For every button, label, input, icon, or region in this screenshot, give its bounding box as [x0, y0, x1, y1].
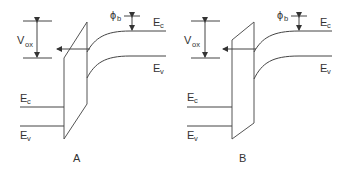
vox-sub: ox	[25, 40, 33, 49]
ev-left-sub: v	[194, 134, 198, 143]
ec-left-sub: c	[194, 96, 198, 105]
band-diagram-figure: V ox ϕ b E c E v E c E v A	[0, 0, 348, 172]
ec-right-band	[254, 31, 332, 52]
panel-caption-a: A	[73, 152, 81, 164]
vox-label: V	[17, 34, 25, 46]
phi-label: ϕ	[110, 9, 116, 21]
phi-sub: b	[117, 14, 121, 23]
vox-label: V	[184, 34, 192, 46]
vox-indicator: V ox	[184, 21, 220, 58]
vox-indicator: V ox	[17, 21, 52, 58]
panel-caption-b: B	[239, 152, 246, 164]
ec-right-band	[87, 31, 166, 52]
ev-right-sub: v	[327, 67, 331, 76]
panel-b: V ox ϕ b E c E v E c E v B	[184, 9, 332, 164]
ev-right-sub: v	[160, 67, 164, 76]
oxide-barrier	[64, 22, 87, 139]
phi-sub: b	[284, 14, 288, 23]
ev-left-sub: v	[27, 134, 31, 143]
phi-label: ϕ	[277, 9, 283, 21]
phi-b-indicator: ϕ b	[277, 9, 307, 30]
ec-right-sub: c	[160, 21, 164, 30]
oxide-barrier	[232, 22, 254, 139]
panel-a: V ox ϕ b E c E v E c E v A	[17, 9, 166, 164]
ec-left-sub: c	[27, 97, 31, 106]
vox-sub: ox	[192, 40, 200, 49]
phi-b-indicator: ϕ b	[110, 9, 140, 30]
ec-right-sub: c	[327, 21, 331, 30]
